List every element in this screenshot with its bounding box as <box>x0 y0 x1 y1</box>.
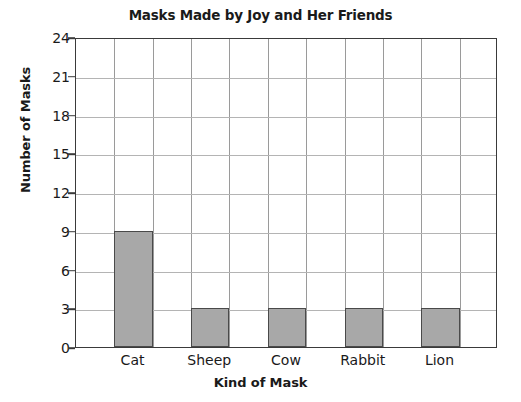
chart-title: Masks Made by Joy and Her Friends <box>0 7 521 23</box>
bar-rabbit <box>345 308 383 347</box>
y-tick-mark <box>68 37 75 39</box>
y-tick-mark <box>68 347 75 349</box>
y-tick-label: 18 <box>30 108 70 124</box>
y-tick-label: 12 <box>30 185 70 201</box>
bars-layer <box>76 39 496 347</box>
bar-lion <box>421 308 459 347</box>
bar-chart-figure: Masks Made by Joy and Her Friends Number… <box>0 0 521 402</box>
bar-cow <box>268 308 306 347</box>
y-tick-label: 6 <box>30 263 70 279</box>
y-tick-mark <box>68 115 75 117</box>
y-tick-label: 21 <box>30 69 70 85</box>
y-tick-label: 24 <box>30 30 70 46</box>
y-tick-label: 9 <box>30 224 70 240</box>
y-tick-label: 0 <box>30 340 70 356</box>
plot-area <box>75 38 497 348</box>
y-tick-mark <box>68 270 75 272</box>
y-tick-mark <box>68 76 75 78</box>
x-tick-label-lion: Lion <box>394 352 484 368</box>
y-tick-label: 3 <box>30 301 70 317</box>
y-tick-mark <box>68 192 75 194</box>
x-axis-label: Kind of Mask <box>0 375 521 390</box>
y-axis-label: Number of Masks <box>18 67 33 193</box>
y-tick-mark <box>68 153 75 155</box>
y-tick-mark <box>68 231 75 233</box>
y-tick-label: 15 <box>30 146 70 162</box>
bar-sheep <box>191 308 229 347</box>
bar-cat <box>114 231 152 347</box>
y-tick-mark <box>68 308 75 310</box>
